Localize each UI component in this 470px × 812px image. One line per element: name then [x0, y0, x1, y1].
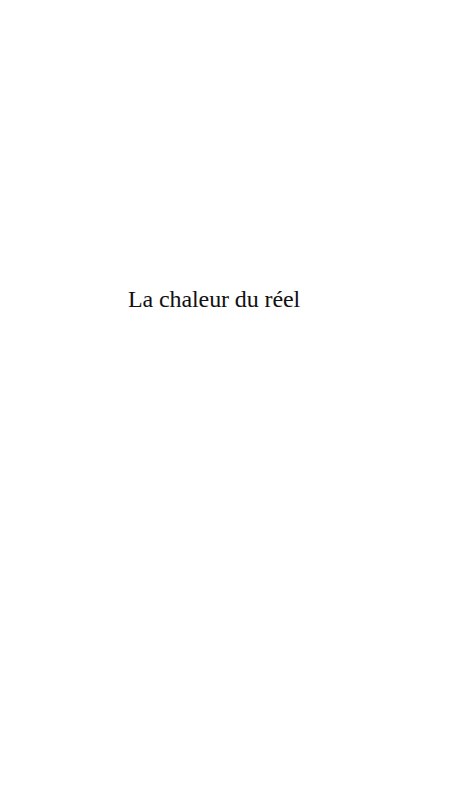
book-page: La chaleur du réel	[0, 0, 470, 812]
book-title: La chaleur du réel	[128, 284, 300, 314]
